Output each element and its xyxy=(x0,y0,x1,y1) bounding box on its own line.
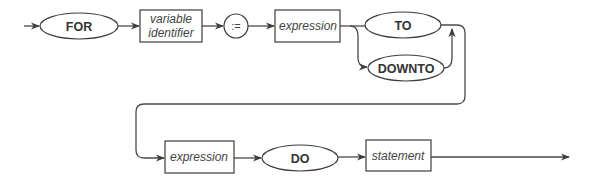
nonterminal-expression-start: expression xyxy=(275,10,340,42)
keyword-downto-label: DOWNTO xyxy=(378,62,435,76)
loop-back-connector xyxy=(136,25,465,158)
keyword-for: FOR xyxy=(40,13,118,39)
keyword-do-label: DO xyxy=(291,152,310,166)
expression-start-label: expression xyxy=(279,19,337,33)
statement-label: statement xyxy=(372,149,425,163)
for-statement-syntax-diagram: FOR variable identifier := expression TO… xyxy=(0,0,591,186)
keyword-to: TO xyxy=(365,12,441,38)
nonterminal-variable-identifier: variable identifier xyxy=(140,10,202,42)
connector-downto-merge xyxy=(444,29,452,68)
identifier-label: identifier xyxy=(148,26,194,40)
variable-label: variable xyxy=(150,12,192,26)
expression-end-label: expression xyxy=(170,150,228,164)
nonterminal-expression-end: expression xyxy=(165,141,234,173)
assign-label: := xyxy=(231,20,240,32)
keyword-for-label: FOR xyxy=(66,20,92,34)
keyword-to-label: TO xyxy=(394,19,411,33)
connector-expression-downto xyxy=(350,26,367,67)
keyword-downto: DOWNTO xyxy=(368,55,444,81)
operator-assign: := xyxy=(224,14,248,38)
keyword-do: DO xyxy=(262,145,338,171)
nonterminal-statement: statement xyxy=(366,140,431,171)
